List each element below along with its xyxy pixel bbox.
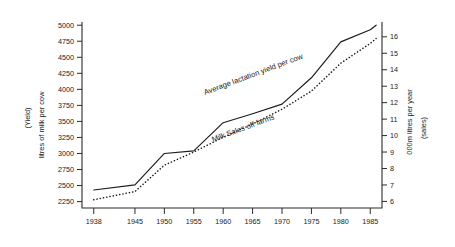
right-tick-label: 14 [390,65,398,74]
left-tick-label: 2500 [58,181,74,190]
series-label-yield: Average lactation yield per cow [203,52,305,97]
right-tick-label: 6 [390,197,394,206]
right-tick-label: 9 [390,148,394,157]
line-chart: 2250250027503000325035003750400042504500… [0,0,455,247]
axis-frame [82,22,382,208]
series-lines [94,25,376,200]
chart-container: 2250250027503000325035003750400042504500… [0,0,455,247]
left-tick-label: 3500 [58,117,74,126]
left-tick-label: 2750 [58,165,74,174]
x-tick-label: 1955 [186,217,202,226]
x-tick-label: 1945 [127,217,143,226]
left-axis-ticks: 2250250027503000325035003750400042504500… [58,21,82,206]
series-line-yield [94,25,376,190]
x-tick-label: 1965 [245,217,261,226]
x-tick-label: 1950 [156,217,172,226]
right-axis-ticks: 678910111213141516 [382,32,398,206]
left-tick-label: 3750 [58,101,74,110]
x-tick-label: 1960 [215,217,231,226]
left-axis-title-primary: litres of milk per cow [37,91,46,159]
right-tick-label: 15 [390,49,398,58]
x-tick-label: 1985 [362,217,378,226]
right-tick-label: 11 [390,115,397,124]
left-tick-label: 2250 [58,197,74,206]
left-tick-label: 3000 [58,149,74,158]
left-tick-label: 3250 [58,133,74,142]
right-tick-label: 10 [390,131,398,140]
x-tick-label: 1938 [86,217,102,226]
right-axis-title-primary: 000m litres per year [405,89,414,155]
left-tick-label: 4500 [58,53,74,62]
right-tick-label: 13 [390,82,398,91]
left-tick-label: 4250 [58,69,74,78]
right-tick-label: 16 [390,32,398,41]
left-tick-label: 4750 [58,37,74,46]
left-tick-label: 5000 [58,21,74,30]
right-tick-label: 7 [390,181,394,190]
x-tick-label: 1975 [303,217,319,226]
left-tick-label: 4000 [58,85,74,94]
x-tick-label: 1970 [274,217,290,226]
x-tick-label: 1980 [333,217,349,226]
left-axis-title-secondary: (Yield) [23,107,32,128]
x-axis-ticks: 1938194519501955196019651970197519801985 [86,208,378,226]
right-tick-label: 12 [390,98,398,107]
right-tick-label: 8 [390,164,394,173]
right-axis-title-secondary: (sales) [419,117,428,139]
